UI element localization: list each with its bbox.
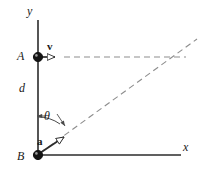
dashed-diagonal-line xyxy=(40,39,197,153)
figure-canvas xyxy=(0,0,208,181)
acceleration-vector-arrow xyxy=(40,137,64,153)
x-axis-label: x xyxy=(183,141,188,153)
kinematics-figure: y x A B d v a θ xyxy=(0,0,208,181)
angle-pointer-right xyxy=(57,114,65,126)
point-b-highlight xyxy=(35,152,38,155)
point-b-label: B xyxy=(17,150,24,162)
y-axis-label: y xyxy=(27,5,32,17)
point-b-marker xyxy=(33,150,42,159)
point-a-label: A xyxy=(17,50,24,62)
acceleration-vector-label: a xyxy=(37,136,43,147)
point-a-marker xyxy=(33,52,42,61)
point-a-highlight xyxy=(35,54,38,57)
velocity-vector-label: v xyxy=(47,41,53,52)
distance-label: d xyxy=(19,82,25,94)
angle-label: θ xyxy=(44,110,50,122)
